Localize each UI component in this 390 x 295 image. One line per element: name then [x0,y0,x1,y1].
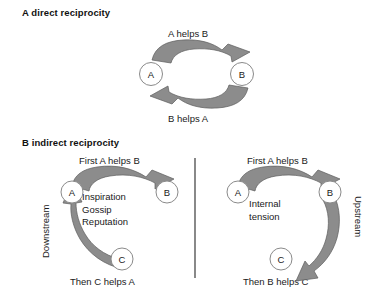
panel-b-right-node-c: C [270,248,292,270]
arrow-then-b-helps-c [296,195,339,281]
panel-b-left-node-c-label: C [119,254,126,265]
arrow-b-helps-a [150,85,248,108]
panel-b-right-node-a: A [227,181,249,203]
panel-a-node-b-label: B [239,69,245,80]
panel-a-graph: A B [140,40,254,108]
panel-b-left-graph: A B C [61,166,178,270]
panel-b-left-node-c: C [111,248,133,270]
panel-b-left-node-b: B [156,181,178,203]
diagram-canvas: A B A B [0,0,390,295]
panel-b-left-node-a: A [61,181,83,203]
panel-b-right-node-b-label: B [327,187,333,198]
panel-b-right-node-a-label: A [235,187,242,198]
panel-b-right-node-b: B [319,181,341,203]
panel-b-right-graph: A B C [227,166,341,281]
panel-a-node-a: A [140,63,163,86]
panel-b-right-node-c-label: C [278,254,285,265]
panel-b-left-node-b-label: B [164,187,170,198]
panel-a-node-b: B [231,63,254,86]
reciprocity-figure: A direct reciprocity A helps B B helps A… [0,0,390,295]
arrow-a-helps-b [152,40,250,63]
panel-a-node-a-label: A [148,69,155,80]
panel-b-left-node-a-label: A [69,187,76,198]
